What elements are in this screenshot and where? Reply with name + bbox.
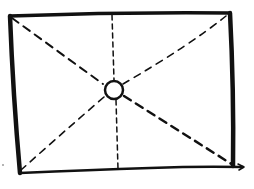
frame-right-edge <box>230 13 233 166</box>
diagonal-center-to-bl <box>21 97 104 170</box>
frame-top-edge <box>10 13 230 16</box>
diagonal-tl-to-center <box>12 18 103 84</box>
diagonal-center-to-br <box>124 96 233 165</box>
vertical-top-to-center <box>112 15 114 80</box>
diagonal-tr-to-center <box>123 16 226 84</box>
frame-bottom-edge <box>20 167 243 173</box>
stray-mark <box>2 164 4 166</box>
vertical-center-to-bottom <box>116 100 118 169</box>
center-circle <box>105 81 123 99</box>
frame-left-edge <box>10 16 20 173</box>
sketch-diagram <box>0 0 254 189</box>
